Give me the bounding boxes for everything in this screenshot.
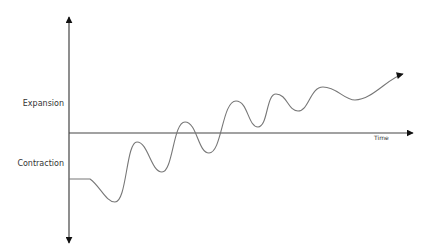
business-cycle-diagram [0, 0, 434, 250]
time-label: Time [374, 135, 389, 141]
contraction-label: Contraction [14, 160, 64, 168]
business-cycle-curve [69, 74, 403, 202]
expansion-label: Expansion [22, 100, 64, 108]
